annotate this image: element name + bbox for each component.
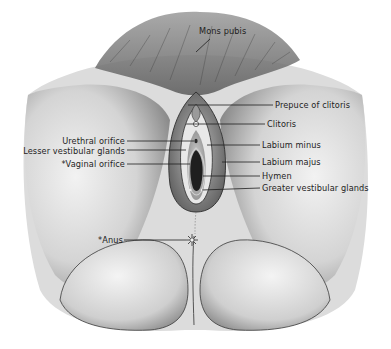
label-hymen: Hymen [262, 171, 292, 181]
label-lesser-vestibular-glands: Lesser vestibular glands [23, 146, 125, 156]
label-prepuce-of-clitoris: Prepuce of clitoris [275, 100, 350, 110]
label-vaginal-orifice: *Vaginal orifice [61, 159, 125, 169]
label-urethral-orifice: Urethral orifice [62, 136, 125, 146]
label-labium-majus: Labium majus [262, 157, 321, 167]
label-greater-vestibular-glands: Greater vestibular glands [262, 183, 369, 193]
label-mons-pubis: Mons pubis [199, 26, 246, 36]
anatomy-illustration: Mons pubis Prepuce of clitoris Clitoris … [0, 0, 391, 349]
label-clitoris: Clitoris [267, 119, 296, 129]
label-labium-minus: Labium minus [262, 140, 321, 150]
anatomy-drawing [0, 0, 391, 349]
label-anus: *Anus [98, 235, 123, 245]
